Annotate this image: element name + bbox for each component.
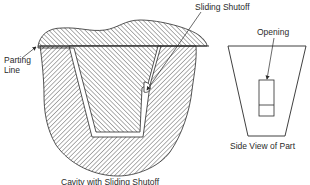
figure-caption: Cavity with Sliding Shutoff	[61, 177, 159, 185]
mold-diagram: Sliding Shutoff Parting Line Opening Sid…	[0, 0, 310, 185]
parting-line-label: Parting Line	[4, 55, 38, 75]
opening-leader	[267, 38, 274, 79]
opening-label: Opening	[257, 27, 289, 37]
side-view-part	[228, 38, 306, 136]
opening-rect	[259, 80, 274, 116]
side-view-label: Side View of Part	[230, 141, 295, 151]
sliding-shutoff-label: Sliding Shutoff	[195, 2, 250, 12]
